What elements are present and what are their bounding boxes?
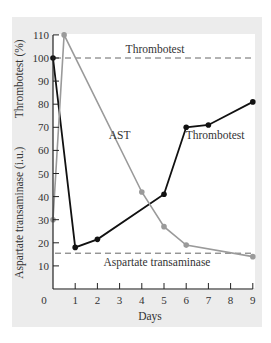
data-point [250, 254, 256, 260]
data-point [161, 191, 167, 197]
y-tick-label: 20 [38, 237, 50, 249]
x-tick-label: 7 [206, 294, 212, 306]
data-point [61, 32, 67, 38]
y-tick-label: 70 [38, 121, 50, 133]
y-tick-label: 40 [38, 191, 50, 203]
x-tick-label: 5 [161, 294, 167, 306]
x-tick-label: 3 [117, 294, 123, 306]
x-tick-label: 8 [228, 294, 234, 306]
y-tick-label: 30 [38, 214, 50, 226]
y-tick-label: 110 [33, 29, 50, 41]
data-point [72, 245, 78, 251]
data-point [250, 99, 256, 105]
x-axis-title: Days [138, 310, 162, 323]
line-chart: ThrombotestAspartate transaminase1020304… [0, 0, 271, 343]
x-tick-label: 9 [250, 294, 256, 306]
y-tick-label: 80 [38, 98, 50, 110]
y-tick-label: 10 [38, 260, 50, 272]
y-tick-label: 100 [33, 52, 50, 64]
y-axis-title-thrombotest: Thrombotest (%) [13, 39, 26, 118]
ref-label-thrombotest: Thrombotest [126, 43, 186, 55]
data-point [183, 242, 189, 248]
x-tick-label: 2 [95, 294, 101, 306]
data-point [206, 122, 212, 128]
y-tick-label: 50 [38, 168, 50, 180]
data-point [139, 189, 145, 195]
ref-label-ast: Aspartate transaminase [104, 256, 211, 269]
x-tick-label: 0 [41, 294, 47, 306]
y-axis-title-ast: Aspartate transaminase (i.u.) [13, 147, 26, 279]
annotation-thrombotest: Thrombotest [186, 129, 246, 141]
y-tick-label: 90 [38, 75, 50, 87]
data-point [161, 224, 167, 230]
y-tick-label: 60 [38, 144, 50, 156]
x-tick-label: 1 [72, 294, 78, 306]
x-tick-label: 4 [139, 294, 145, 306]
data-point [95, 237, 101, 243]
annotation-ast: AST [109, 129, 131, 141]
x-tick-label: 6 [183, 294, 189, 306]
